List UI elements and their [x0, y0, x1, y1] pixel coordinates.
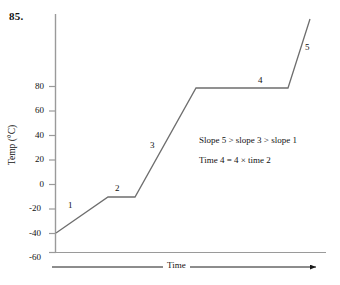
segment-label-4: 4	[258, 75, 263, 85]
segment-label-1: 1	[68, 200, 73, 210]
annotation-slope-comparison: Slope 5 > slope 3 > slope 1	[199, 135, 297, 145]
figure-container: 85. Temp (°C) 80 60 40 20 0 -20 -40 -60 …	[0, 0, 340, 285]
segment-label-2: 2	[115, 183, 120, 193]
annotation-time-relation: Time 4 = 4 × time 2	[199, 155, 271, 165]
heating-curve	[56, 19, 310, 233]
x-axis-label: Time	[163, 260, 190, 270]
segment-label-5: 5	[305, 42, 310, 52]
segment-label-3: 3	[150, 140, 155, 150]
